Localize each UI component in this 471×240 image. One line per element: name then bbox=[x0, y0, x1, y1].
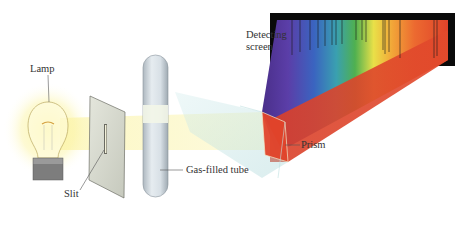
lamp bbox=[28, 102, 68, 180]
gas-tube-label: Gas-filled tube bbox=[186, 164, 249, 175]
slit-plate bbox=[89, 96, 125, 198]
screen-label-line1: Detecting bbox=[246, 29, 287, 40]
lamp-base-top bbox=[33, 158, 63, 164]
gas-filled-tube bbox=[143, 55, 168, 197]
screen-label-line2: screen bbox=[246, 41, 273, 52]
prism-label: Prism bbox=[301, 139, 326, 150]
lamp-label: Lamp bbox=[30, 63, 55, 74]
lamp-base bbox=[33, 164, 63, 180]
slit-label: Slit bbox=[64, 188, 79, 199]
